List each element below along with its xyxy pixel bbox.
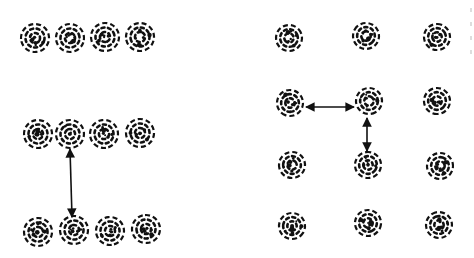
sphere — [348, 18, 384, 54]
sphere — [56, 212, 92, 248]
sphere — [94, 215, 125, 246]
sphere — [120, 113, 159, 152]
sphere — [353, 150, 382, 179]
sphere — [86, 18, 124, 56]
sphere — [276, 149, 308, 181]
sphere — [424, 88, 451, 115]
sphere — [21, 215, 55, 249]
sphere — [424, 24, 450, 50]
sphere — [52, 20, 87, 55]
sphere — [131, 214, 161, 244]
sphere — [421, 207, 457, 243]
right-panel — [271, 18, 457, 244]
sphere — [88, 118, 120, 150]
sphere — [51, 115, 90, 154]
vertical-double-arrow — [70, 149, 72, 217]
sphere — [351, 83, 387, 119]
sphere — [20, 23, 50, 53]
sphere — [21, 117, 55, 151]
sphere — [126, 23, 155, 52]
diagram-canvas — [0, 0, 474, 258]
sphere — [274, 208, 310, 244]
sphere — [271, 20, 308, 57]
sphere — [273, 86, 307, 120]
left-panel — [20, 18, 161, 249]
sphere — [354, 209, 383, 238]
sphere — [424, 150, 455, 181]
